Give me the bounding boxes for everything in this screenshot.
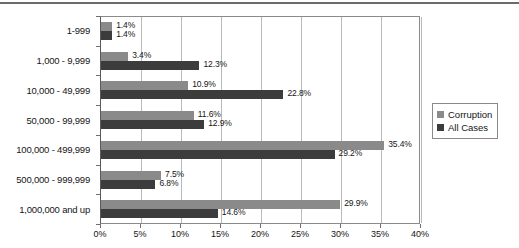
legend-swatch-icon bbox=[437, 124, 444, 131]
category-label: 1-999 bbox=[0, 16, 96, 46]
bar-group: 35.4%29.2% bbox=[101, 141, 419, 165]
value-tick-label: 35% bbox=[371, 229, 389, 239]
legend-swatch-icon bbox=[437, 111, 444, 118]
legend-item[interactable]: Corruption bbox=[437, 108, 492, 121]
value-tick-label: 0% bbox=[93, 229, 106, 239]
bar-corruption[interactable] bbox=[101, 52, 128, 61]
category-label: 1,000,000 and up bbox=[0, 194, 96, 224]
bar-row: 1.4% bbox=[101, 31, 419, 40]
bar-value-label: 12.9% bbox=[208, 118, 232, 128]
bar-group: 7.5%6.8% bbox=[101, 171, 419, 195]
bar-value-label: 29.2% bbox=[339, 148, 363, 158]
bar-value-label: 12.3% bbox=[203, 59, 227, 69]
bar-groups: 1.4%1.4%3.4%12.3%10.9%22.8%11.6%12.9%35.… bbox=[101, 17, 419, 223]
bar-all-cases[interactable] bbox=[101, 120, 204, 129]
value-tick bbox=[220, 224, 221, 228]
bar-all-cases[interactable] bbox=[101, 150, 335, 159]
bar-group: 11.6%12.9% bbox=[101, 111, 419, 135]
bar-corruption[interactable] bbox=[101, 171, 161, 180]
bar-all-cases[interactable] bbox=[101, 209, 218, 218]
category-label: 10,000 - 49,999 bbox=[0, 75, 96, 105]
value-tick bbox=[140, 224, 141, 228]
value-tick bbox=[340, 224, 341, 228]
legend-item[interactable]: All Cases bbox=[437, 121, 492, 134]
value-tick bbox=[180, 224, 181, 228]
value-tick bbox=[300, 224, 301, 228]
bar-group: 10.9%22.8% bbox=[101, 81, 419, 105]
bar-value-label: 29.9% bbox=[344, 198, 368, 208]
bar-corruption[interactable] bbox=[101, 200, 340, 209]
bar-value-label: 14.6% bbox=[222, 207, 246, 217]
bar-row: 6.8% bbox=[101, 180, 419, 189]
legend-label: Corruption bbox=[448, 109, 492, 120]
bar-all-cases[interactable] bbox=[101, 90, 283, 99]
bar-all-cases[interactable] bbox=[101, 61, 199, 70]
value-axis-labels: 0%5%10%15%20%25%30%35%40% bbox=[100, 229, 420, 243]
value-tick-label: 25% bbox=[291, 229, 309, 239]
value-tick bbox=[260, 224, 261, 228]
bar-value-label: 3.4% bbox=[132, 50, 151, 60]
bar-group: 3.4%12.3% bbox=[101, 52, 419, 76]
bar-row: 3.4% bbox=[101, 52, 419, 61]
value-tick bbox=[100, 224, 101, 228]
bar-row: 12.3% bbox=[101, 61, 419, 70]
bar-corruption[interactable] bbox=[101, 111, 194, 120]
bar-value-label: 35.4% bbox=[388, 139, 412, 149]
bar-value-label: 6.8% bbox=[159, 178, 178, 188]
bar-group: 1.4%1.4% bbox=[101, 22, 419, 46]
category-label: 50,000 - 99,999 bbox=[0, 105, 96, 135]
bar-row: 10.9% bbox=[101, 81, 419, 90]
bar-group: 29.9%14.6% bbox=[101, 200, 419, 224]
plot-area: 1.4%1.4%3.4%12.3%10.9%22.8%11.6%12.9%35.… bbox=[100, 16, 420, 224]
bar-row: 22.8% bbox=[101, 90, 419, 99]
bar-row: 11.6% bbox=[101, 111, 419, 120]
value-tick-label: 30% bbox=[331, 229, 349, 239]
bar-row: 29.2% bbox=[101, 150, 419, 159]
value-tick-label: 10% bbox=[171, 229, 189, 239]
value-tick bbox=[420, 224, 421, 228]
category-axis-labels: 1-9991,000 - 9,99910,000 - 49,99950,000 … bbox=[0, 16, 96, 224]
value-tick-label: 15% bbox=[211, 229, 229, 239]
bar-all-cases[interactable] bbox=[101, 31, 112, 40]
bar-row: 35.4% bbox=[101, 141, 419, 150]
bar-corruption[interactable] bbox=[101, 81, 188, 90]
bar-row: 7.5% bbox=[101, 171, 419, 180]
category-label: 1,000 - 9,999 bbox=[0, 46, 96, 76]
bar-row: 29.9% bbox=[101, 200, 419, 209]
gridline bbox=[421, 17, 422, 223]
chart-legend: CorruptionAll Cases bbox=[432, 103, 498, 139]
value-tick-label: 40% bbox=[411, 229, 429, 239]
bar-row: 14.6% bbox=[101, 209, 419, 218]
bar-corruption[interactable] bbox=[101, 22, 112, 31]
value-tick-label: 5% bbox=[133, 229, 146, 239]
value-tick bbox=[380, 224, 381, 228]
bar-chart: 1-9991,000 - 9,99910,000 - 49,99950,000 … bbox=[0, 0, 519, 248]
bar-value-label: 1.4% bbox=[116, 29, 135, 39]
bar-value-label: 22.8% bbox=[287, 88, 311, 98]
legend-label: All Cases bbox=[448, 122, 488, 133]
bar-all-cases[interactable] bbox=[101, 180, 155, 189]
category-label: 100,000 - 499,999 bbox=[0, 135, 96, 165]
bar-row: 12.9% bbox=[101, 120, 419, 129]
category-label: 500,000 - 999,999 bbox=[0, 165, 96, 195]
bar-value-label: 10.9% bbox=[192, 79, 216, 89]
value-tick-label: 20% bbox=[251, 229, 269, 239]
bar-row: 1.4% bbox=[101, 22, 419, 31]
